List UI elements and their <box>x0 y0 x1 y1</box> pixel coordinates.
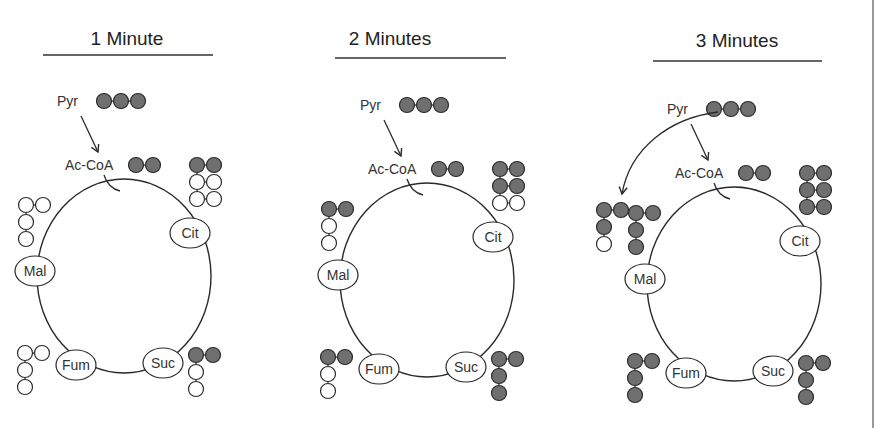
citrate-node-label: Cit <box>181 225 198 241</box>
malate-node: Mal <box>625 264 665 294</box>
succinate-carbon-structure <box>799 356 831 405</box>
page-edge-divider <box>872 0 874 428</box>
labeled-carbon <box>492 369 507 384</box>
unlabeled-carbon <box>321 384 336 399</box>
labeled-carbon <box>800 183 815 198</box>
labeled-carbon <box>597 220 612 235</box>
acetyl-coa-entry-line <box>104 175 120 191</box>
labeled-carbon <box>799 373 814 388</box>
krebs-cycle-ring <box>37 179 211 373</box>
panel-2-minute: 2 MinutesPyrAc-CoACitMalFumSuc <box>318 28 525 401</box>
unlabeled-carbon <box>189 365 204 380</box>
labeled-carbon <box>97 94 112 109</box>
labeled-carbon <box>597 203 612 218</box>
labeled-carbon <box>629 223 644 238</box>
labeled-carbon <box>417 98 432 113</box>
succinate-node-label: Suc <box>151 355 175 371</box>
labeled-carbon <box>449 162 464 177</box>
fumarate-carbon-structure <box>18 346 50 395</box>
pyruvate-label: Pyr <box>667 101 688 117</box>
malate-carbon-structure <box>322 202 354 251</box>
fumarate-node: Fum <box>666 358 706 388</box>
acetyl-coa-label: Ac-CoA <box>368 161 417 177</box>
acetyl-coa-carbons <box>739 166 771 181</box>
labeled-carbon <box>493 162 508 177</box>
unlabeled-carbon <box>322 236 337 251</box>
panel-3-minute: 3 MinutesPyrAc-CoACitMalFumSuc <box>597 30 832 405</box>
unlabeled-carbon <box>19 232 34 247</box>
labeled-carbon <box>129 158 144 173</box>
labeled-carbon <box>646 206 661 221</box>
unlabeled-carbon <box>597 237 612 252</box>
labeled-carbon <box>207 158 222 173</box>
labeled-carbon <box>114 94 129 109</box>
succinate-node-label: Suc <box>761 363 785 379</box>
labeled-carbon <box>322 202 337 217</box>
panel-title: 2 Minutes <box>349 28 431 49</box>
succinate-node-label: Suc <box>454 359 478 375</box>
labeled-carbon <box>509 352 524 367</box>
fumarate-carbon-structure <box>321 350 353 399</box>
labeled-carbon <box>510 179 525 194</box>
unlabeled-carbon <box>493 196 508 211</box>
pyruvate-to-acetyl-coa-arrow <box>384 120 401 156</box>
labeled-carbon <box>756 166 771 181</box>
oxaloacetate-from-pyruvate-carbon-structure <box>597 203 629 252</box>
labeled-carbon <box>629 206 644 221</box>
pyruvate-carbons <box>707 102 756 117</box>
succinate-node: Suc <box>446 352 486 382</box>
acetyl-coa-label: Ac-CoA <box>675 165 724 181</box>
unlabeled-carbon <box>189 382 204 397</box>
pyruvate-label: Pyr <box>57 93 78 109</box>
acetyl-coa-carbons <box>432 162 464 177</box>
labeled-carbon <box>628 388 643 403</box>
acetyl-coa-entry-line <box>714 183 730 199</box>
unlabeled-carbon <box>207 192 222 207</box>
unlabeled-carbon <box>207 175 222 190</box>
labeled-carbon <box>190 158 205 173</box>
unlabeled-carbon <box>36 198 51 213</box>
labeled-carbon <box>493 179 508 194</box>
citrate-carbon-structure <box>190 158 222 207</box>
fumarate-carbon-structure <box>628 354 660 403</box>
labeled-carbon <box>434 98 449 113</box>
unlabeled-carbon <box>19 198 34 213</box>
pyruvate-to-acetyl-coa-arrow <box>691 124 708 160</box>
unlabeled-carbon <box>510 196 525 211</box>
labeled-carbon <box>400 98 415 113</box>
labeled-carbon <box>628 354 643 369</box>
citrate-node-label: Cit <box>484 229 501 245</box>
krebs-cycle-labeling-diagram: 1 MinutePyrAc-CoACitMalFumSuc2 MinutesPy… <box>0 0 876 428</box>
panel-title: 3 Minutes <box>696 30 778 51</box>
unlabeled-carbon <box>35 346 50 361</box>
pyruvate-carbons <box>400 98 449 113</box>
malate-node-label: Mal <box>327 267 350 283</box>
labeled-carbon <box>628 371 643 386</box>
labeled-carbon <box>707 102 722 117</box>
pyruvate-to-oxaloacetate-arrow <box>622 112 718 194</box>
fumarate-node-label: Fum <box>365 361 393 377</box>
succinate-carbon-structure <box>189 348 221 397</box>
panel-1-minute: 1 MinutePyrAc-CoACitMalFumSuc <box>15 28 222 397</box>
krebs-cycle-ring <box>647 187 821 381</box>
labeled-carbon <box>492 352 507 367</box>
succinate-node: Suc <box>143 348 183 378</box>
unlabeled-carbon <box>18 363 33 378</box>
unlabeled-carbon <box>190 175 205 190</box>
citrate-node-label: Cit <box>791 233 808 249</box>
labeled-carbon <box>799 356 814 371</box>
malate-node-label: Mal <box>24 263 47 279</box>
labeled-carbon <box>645 354 660 369</box>
labeled-carbon <box>492 386 507 401</box>
citrate-node: Cit <box>170 218 210 248</box>
labeled-carbon <box>338 350 353 365</box>
labeled-carbon <box>131 94 146 109</box>
labeled-carbon <box>817 200 832 215</box>
labeled-carbon <box>800 166 815 181</box>
labeled-carbon <box>799 390 814 405</box>
labeled-carbon <box>432 162 447 177</box>
fumarate-node: Fum <box>359 354 399 384</box>
citrate-carbon-structure <box>493 162 525 211</box>
labeled-carbon <box>339 202 354 217</box>
labeled-carbon <box>206 348 221 363</box>
